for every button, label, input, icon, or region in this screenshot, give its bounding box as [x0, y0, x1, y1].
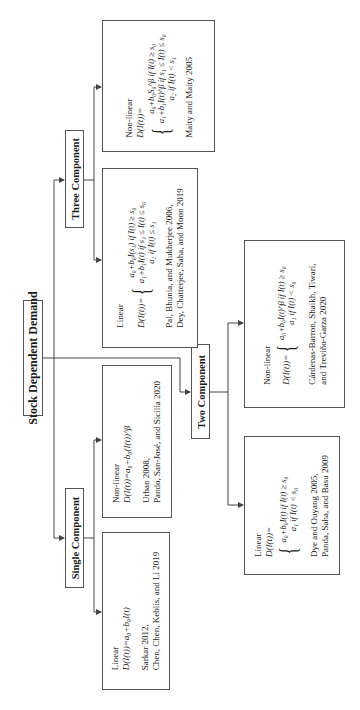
brace-icon: { [275, 547, 301, 554]
reference: Panda, Saha, and Basu 2009 [320, 455, 331, 557]
reference: Maity and Maity 2005 [183, 34, 194, 138]
single-component-label: Single Component [69, 497, 80, 580]
equation-lhs: D(I(t))= [280, 355, 291, 385]
type-label: Linear [115, 188, 126, 327]
equation-lhs: D(I(t))= [135, 298, 146, 328]
type-label: Non-linear [123, 34, 134, 138]
reference: Cárdenas-Barron, Shaikh, Tiwari, [306, 263, 317, 384]
single-component-node: Single Component [65, 488, 84, 588]
brace-icon: { [147, 128, 173, 135]
reference: Dye and Ouyang 2005, [309, 455, 320, 557]
reference: Dey, Chatterjee, Saha, and Moon 2019 [175, 188, 186, 327]
piecewise-equation: D(I(t))= { a₀+b₀I(s₁) if I(t) ≥ s₀ a₁+b₁… [126, 188, 156, 327]
root-node: Stock Dependent Demand [23, 300, 43, 416]
piecewise-equation: { a₀+b₀S₀^β if I(t) ≥ s₀ a₁+b₁I(t)^β if … [145, 34, 175, 138]
reference: and Treviño-Garza 2020 [317, 263, 328, 384]
two-component-label: Two Component [195, 354, 206, 428]
type-label: Linear [253, 455, 264, 557]
reference: Pal, Bhunia, and Mukherjee 2006, [164, 188, 175, 327]
type-label: Non-linear [261, 263, 272, 384]
equation-lhs: D(I(t))= [264, 455, 275, 557]
equation-lhs: D(I(t))= [134, 34, 145, 138]
three-linear-box: Linear D(I(t))= { a₀+b₀I(s₁) if I(t) ≥ s… [102, 168, 198, 348]
equation: D(I(t))=a₀+b₀(I(t))^β [122, 381, 133, 503]
root-label: Stock Dependent Demand [26, 291, 41, 424]
brace-icon: { [272, 345, 298, 352]
three-nonlinear-box: Non-linear D(I(t))= { a₀+b₀S₀^β if I(t) … [102, 20, 215, 152]
reference: Chen, Chen, Keblis, and Li 2019 [151, 552, 162, 671]
single-linear-box: Linear D(I(t))=a₀+b₀I(t) Sarkar 2012, Ch… [102, 532, 170, 690]
piecewise-equation: D(I(t))= { a₀+b₀I(t)^β if I(t) ≥ s₀ a₁ i… [272, 263, 298, 384]
two-nonlinear-box: Non-linear D(I(t))= { a₀+b₀I(t)^β if I(t… [244, 240, 345, 408]
piecewise-equation: { a₀+b₀I(t) if I(t) ≥ s₀ a₁ if I(t) < s₀ [275, 455, 301, 557]
three-component-node: Three Component [65, 130, 84, 228]
single-nonlinear-box: Non-linear D(I(t))=a₀+b₀(I(t))^β Urban 2… [102, 365, 172, 518]
three-component-label: Three Component [69, 138, 80, 220]
reference: Pando, San-José, and Sicilia 2020 [152, 381, 163, 503]
two-linear-box: Linear D(I(t))= { a₀+b₀I(t) if I(t) ≥ s₀… [244, 436, 340, 575]
two-component-node: Two Component [191, 344, 210, 439]
type-label: Non-linear [111, 381, 122, 503]
type-label: Linear [110, 552, 121, 671]
equation: D(I(t))=a₀+b₀I(t) [121, 552, 132, 671]
reference: Sarkar 2012, [140, 552, 151, 671]
reference: Urban 2008, [141, 381, 152, 503]
brace-icon: { [128, 288, 154, 295]
